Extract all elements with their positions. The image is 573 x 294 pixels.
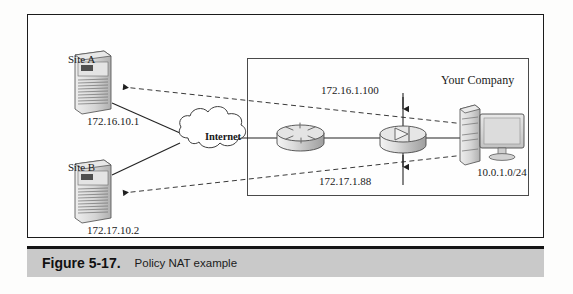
site-b-ip-label: 172.17.10.2 (87, 224, 139, 236)
figure-page: Site A 172.16.10.1 Site B 172.17.10.2 In… (0, 0, 573, 294)
internet-cloud-label: Internet (205, 131, 241, 142)
figure-caption-bar: Figure 5-17. Policy NAT example (27, 246, 544, 277)
translated-ip-top-label: 172.16.1.100 (321, 84, 379, 96)
figure-number: Figure 5-17. (42, 255, 121, 271)
company-title-label: Your Company (441, 73, 514, 88)
solid-link-site-b-to-cloud (112, 143, 180, 175)
inside-network-label: 10.0.1.0/24 (477, 166, 527, 178)
figure-frame: Site A 172.16.10.1 Site B 172.17.10.2 In… (27, 14, 544, 238)
figure-caption-text: Policy NAT example (135, 257, 237, 269)
site-a-label: Site A (68, 53, 95, 65)
translated-ip-bottom-label: 172.17.1.88 (319, 175, 371, 187)
site-a-ip-label: 172.16.10.1 (87, 115, 139, 127)
site-b-label: Site B (68, 161, 95, 173)
